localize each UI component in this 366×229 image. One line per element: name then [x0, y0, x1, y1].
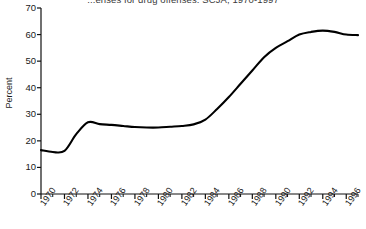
axes — [37, 8, 358, 199]
x-axis-ticks — [41, 194, 358, 199]
plot-area — [0, 0, 366, 229]
data-series-line — [41, 31, 358, 153]
line-chart: ...enses for drug offenses: SCJA, 1970-1… — [0, 0, 366, 229]
